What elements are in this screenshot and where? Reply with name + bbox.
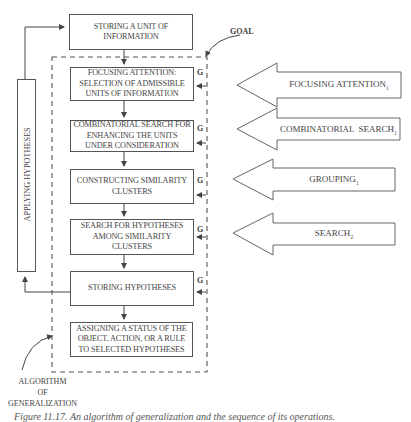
step-label: STORING HYPOTHESES [88,283,176,294]
storing-unit-box: STORING A UNIT OF INFORMATION [69,14,193,50]
algorithm-label-line: GENERALIZATION [0,398,85,409]
operation-subscript: 1 [356,180,359,186]
step-constructing-clusters: CONSTRUCTING SIMILARITY CLUSTERS [70,169,194,204]
operation-label-focusing: FOCUSING ATTENTION1 [277,79,401,91]
step-label: FOCUSING ATTENTION: SELECTION OF ADMISSI… [73,68,191,100]
step-assigning-status: ASSIGNING A STATUS OF THE OBJECT, ACTION… [70,322,193,357]
operation-name: COMBINATORIAL SEARCH [280,124,394,134]
step-focusing-attention: FOCUSING ATTENTION: SELECTION OF ADMISSI… [70,67,194,101]
goal-marker: G [197,124,203,133]
operation-name: GROUPING [309,174,356,184]
goal-marker: G [197,276,203,285]
step-search-hypotheses: SEARCH FOR HYPOTHESES AMONG SIMILARITY C… [70,219,194,255]
step-storing-hypotheses: STORING HYPOTHESES [70,271,194,306]
applying-hypotheses-label: APPLYING HYPOTHESES [23,125,32,225]
step-combinatorial-search: COMBINATORIAL SEARCH FOR ENHANCING THE U… [70,120,194,152]
goal-label: GOAL [230,27,254,36]
step-label: COMBINATORIAL SEARCH FOR ENHANCING THE U… [73,120,191,152]
algorithm-of-generalization-label: ALGORITHM OF GENERALIZATION [0,376,85,409]
algorithm-label-line: ALGORITHM [0,376,85,387]
operation-label-grouping: GROUPING1 [273,174,395,186]
step-label: SEARCH FOR HYPOTHESES AMONG SIMILARITY C… [73,221,191,253]
operation-subscript: 1 [394,130,397,136]
operation-subscript: 2 [350,234,353,240]
storing-unit-label: STORING A UNIT OF INFORMATION [72,22,190,43]
operation-name: FOCUSING ATTENTION [289,79,386,89]
figure-caption: Figure 11.17. An algorithm of generaliza… [14,411,335,422]
step-label: ASSIGNING A STATUS OF THE OBJECT, ACTION… [73,324,190,356]
operation-label-combinatorial: COMBINATORIAL SEARCH1 [277,124,400,136]
operation-name: SEARCH [315,228,351,238]
step-label: CONSTRUCTING SIMILARITY CLUSTERS [73,176,191,197]
goal-marker: G [197,68,203,77]
algorithm-label-line: OF [0,387,85,398]
operation-label-search: SEARCH2 [273,228,395,240]
goal-marker: G [197,176,203,185]
operation-subscript: 1 [386,85,389,91]
goal-marker: G [197,225,203,234]
